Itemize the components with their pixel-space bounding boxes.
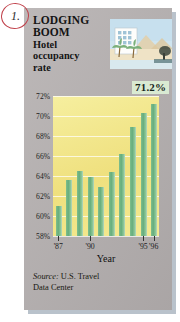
bar (109, 172, 115, 236)
bar (66, 180, 72, 236)
annotation-label: 1. (11, 9, 20, 24)
source-prefix: Source: (33, 272, 59, 281)
gridline (53, 96, 159, 97)
bar (151, 104, 157, 236)
subtitle-line1: Hotel (33, 39, 103, 51)
y-axis: 72%70%68%66%64%62%60%58% (24, 96, 53, 236)
y-axis-tick-label: 62% (36, 192, 50, 201)
y-axis-tick-label: 60% (36, 212, 50, 221)
x-axis-tick-mark (143, 236, 144, 241)
page-title-line2: BOOM (33, 27, 103, 39)
y-axis-tick-label: 72% (36, 92, 50, 101)
source-line2: Data Center (33, 283, 73, 292)
y-axis-tick-label: 68% (36, 132, 50, 141)
subtitle-line2: occupancy (33, 50, 103, 62)
source-line1: U.S. Travel (61, 272, 99, 281)
bar (141, 113, 147, 236)
y-axis-tick-label: 64% (36, 172, 50, 181)
x-axis: '87'90'95'96 (53, 236, 159, 260)
headline-block: LODGING BOOM Hotel occupancy rate (33, 15, 103, 73)
x-axis-tick-label: '96 (149, 242, 158, 251)
y-axis-tick-label: 58% (36, 232, 50, 241)
x-axis-tick-label: '90 (85, 242, 94, 251)
x-axis-tick-mark (90, 236, 91, 241)
subtitle-line3: rate (33, 62, 103, 74)
bar (77, 171, 83, 236)
plot-area (53, 96, 159, 236)
x-axis-tick-mark (58, 236, 59, 241)
bar (119, 154, 125, 236)
hotel-beach-resort-icon (110, 19, 172, 69)
y-axis-tick-label: 70% (36, 112, 50, 121)
chart-figure-panel: LODGING BOOM Hotel occupancy rate (24, 8, 172, 310)
bar (130, 127, 136, 236)
y-axis-tick-label: 66% (36, 152, 50, 161)
x-axis-tick-label: '95 (138, 242, 147, 251)
bar (98, 187, 104, 236)
callout-value-badge: 71.2% (132, 81, 169, 94)
bar (88, 177, 94, 236)
bar (56, 206, 62, 236)
x-axis-tick-mark (154, 236, 155, 241)
source-note: Source: U.S. Travel Data Center (33, 272, 163, 293)
x-axis-tick-label: '87 (54, 242, 63, 251)
